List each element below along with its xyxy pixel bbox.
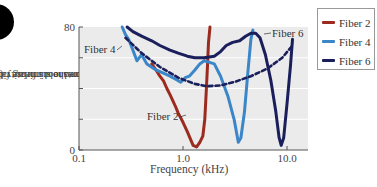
- y-tick-label-80: 80: [64, 21, 76, 33]
- annotation-fiber-2: Fiber 2: [147, 110, 178, 122]
- x-tick-label-10-0: 10.0: [277, 152, 297, 164]
- legend-swatch-fiber-4: [322, 40, 335, 43]
- legend-item-fiber-6: Fiber 6: [322, 51, 374, 70]
- chart-legend: Fiber 2 Fiber 4 Fiber 6: [317, 8, 375, 70]
- legend-swatch-fiber-2: [322, 21, 335, 24]
- legend-swatch-fiber-6: [322, 59, 335, 62]
- legend-label-fiber-2: Fiber 2: [339, 17, 370, 29]
- annotation-fiber-4: Fiber 4: [84, 43, 116, 55]
- x-tick-label-0-1: 0.1: [72, 152, 86, 164]
- x-axis-title: Frequency (kHz): [150, 163, 228, 175]
- legend-label-fiber-4: Fiber 4: [339, 36, 370, 48]
- legend-item-fiber-2: Fiber 2: [322, 13, 374, 32]
- legend-label-fiber-6: Fiber 6: [339, 55, 370, 67]
- annotation-fiber-6: Fiber 6: [272, 27, 304, 39]
- legend-item-fiber-4: Fiber 4: [322, 32, 374, 51]
